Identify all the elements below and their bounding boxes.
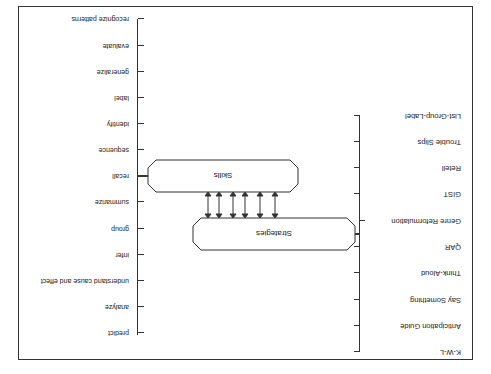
strategy-item: List-Group-Label — [405, 112, 461, 120]
skill-item: identify — [107, 120, 129, 128]
skill-item: predict — [108, 329, 129, 337]
strategy-item: Trouble Slips — [418, 138, 462, 146]
strategies-box-label: Strategies — [193, 229, 355, 238]
skill-item: generalize — [97, 68, 129, 76]
skill-item: evaluate — [103, 42, 129, 50]
skills-box-label: Skills — [148, 171, 298, 180]
diagram-canvas: Strategies Skills K-W-L Anticipation Gui… — [0, 0, 491, 374]
double-arrows — [205, 192, 278, 218]
strategy-item: Retell — [442, 164, 461, 172]
skill-item: analyze — [105, 303, 129, 311]
strategy-item: Say Something — [410, 296, 461, 304]
skill-item: sequence — [99, 146, 129, 154]
strategy-item: K-W-L — [440, 348, 461, 356]
skill-item: group — [111, 225, 129, 233]
strategy-item: Genre Reformulation — [391, 217, 461, 225]
skill-item: label — [114, 94, 129, 102]
strategy-item: Think-Aloud — [421, 269, 461, 277]
strategy-item: GIST — [443, 190, 461, 198]
skill-item: infer — [115, 251, 129, 259]
skill-item: recall — [112, 172, 129, 180]
strategy-item: Anticipation Guide — [400, 322, 461, 330]
connector-graphics — [0, 0, 491, 374]
strategy-item: QAR — [445, 243, 461, 251]
skill-item: summarize — [95, 198, 129, 206]
skill-item: understand cause and effect — [41, 277, 129, 285]
skill-item: recognize patterns — [71, 15, 129, 23]
